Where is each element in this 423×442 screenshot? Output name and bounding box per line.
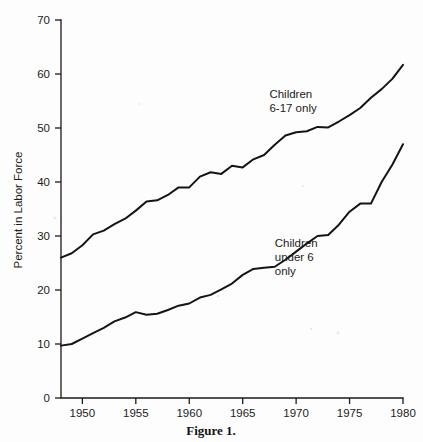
chart-background xyxy=(0,0,423,442)
y-tick-label: 60 xyxy=(37,68,50,80)
y-tick-label: 30 xyxy=(37,230,50,242)
x-tick-label: 1965 xyxy=(230,407,256,419)
y-tick-label: 40 xyxy=(37,176,50,188)
figure-container: 0102030405060701950195519601965197019751… xyxy=(0,0,423,442)
y-axis-title: Percent in Labor Force xyxy=(12,152,24,269)
series-annotation-1: Children xyxy=(275,237,318,249)
series-annotation-1: only xyxy=(275,265,296,277)
figure-caption: Figure 1. xyxy=(186,423,236,438)
x-tick-label: 1975 xyxy=(337,407,363,419)
series-annotation-0: Children xyxy=(269,88,312,100)
y-tick-label: 10 xyxy=(37,338,50,350)
line-chart: 0102030405060701950195519601965197019751… xyxy=(0,0,423,442)
y-tick-label: 70 xyxy=(37,14,50,26)
y-tick-label: 50 xyxy=(37,122,50,134)
x-tick-label: 1955 xyxy=(123,407,149,419)
x-tick-label: 1980 xyxy=(390,407,416,419)
x-tick-label: 1970 xyxy=(283,407,309,419)
x-tick-label: 1960 xyxy=(176,407,202,419)
series-annotation-1: under 6 xyxy=(275,251,314,263)
y-tick-label: 20 xyxy=(37,284,50,296)
series-annotation-0: 6-17 only xyxy=(269,102,317,114)
x-tick-label: 1950 xyxy=(70,407,96,419)
y-tick-label: 0 xyxy=(44,392,50,404)
